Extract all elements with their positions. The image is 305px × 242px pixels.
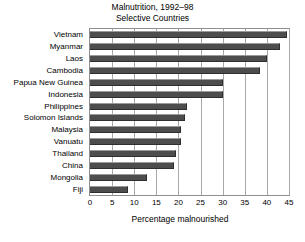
bar-row	[90, 162, 289, 169]
bar-row	[90, 126, 289, 133]
bar-myanmar	[90, 43, 280, 50]
x-tick-label-5: 5	[110, 198, 114, 208]
category-label-china: China	[62, 161, 83, 170]
category-label-thailand: Thailand	[52, 149, 83, 158]
bar-row	[90, 150, 289, 157]
category-label-cambodia: Cambodia	[47, 66, 83, 75]
bar-philippines	[90, 103, 187, 110]
bar-papua-new-guinea	[90, 79, 223, 86]
x-tick-label-20: 20	[174, 198, 183, 208]
bar-row	[90, 186, 289, 193]
bar-cambodia	[90, 67, 260, 74]
bar-row	[90, 43, 289, 50]
bar-vietnam	[90, 31, 287, 38]
chart-title-line-2: Selective Countries	[0, 13, 305, 24]
x-axis-title: Percentage malnourished	[60, 214, 300, 225]
category-label-fiji: Fiji	[73, 185, 83, 194]
category-label-papua-new-guinea: Papua New Guinea	[14, 78, 83, 87]
bars-layer	[90, 29, 289, 195]
x-tick-label-30: 30	[218, 198, 227, 208]
x-tick-label-45: 45	[285, 198, 294, 208]
category-label-laos: Laos	[66, 54, 83, 63]
category-label-vietnam: Vietnam	[54, 30, 83, 39]
bar-indonesia	[90, 91, 223, 98]
bar-laos	[90, 55, 267, 62]
bar-mongolia	[90, 174, 147, 181]
bar-thailand	[90, 150, 176, 157]
bar-fiji	[90, 186, 128, 193]
category-label-solomon-islands: Solomon Islands	[24, 113, 83, 122]
x-tick-label-40: 40	[262, 198, 271, 208]
bar-row	[90, 114, 289, 121]
category-axis-labels: VietnamMyanmarLaosCambodiaPapua New Guin…	[0, 28, 86, 196]
x-tick-label-15: 15	[152, 198, 161, 208]
category-label-mongolia: Mongolia	[51, 173, 83, 182]
bar-row	[90, 31, 289, 38]
bar-row	[90, 103, 289, 110]
category-label-malaysia: Malaysia	[51, 125, 83, 134]
x-tick-label-0: 0	[88, 198, 92, 208]
x-tick-label-25: 25	[196, 198, 205, 208]
category-label-vanuatu: Vanuatu	[54, 137, 83, 146]
bar-row	[90, 174, 289, 181]
bar-vanuatu	[90, 138, 181, 145]
category-label-philippines: Philippines	[44, 102, 83, 111]
bar-row	[90, 138, 289, 145]
gridline	[289, 29, 290, 195]
bar-malaysia	[90, 126, 181, 133]
category-label-indonesia: Indonesia	[48, 90, 83, 99]
chart-title: Malnutrition, 1992–98 Selective Countrie…	[0, 2, 305, 23]
bar-row	[90, 67, 289, 74]
category-label-myanmar: Myanmar	[50, 42, 83, 51]
chart-title-line-1: Malnutrition, 1992–98	[0, 2, 305, 13]
bar-row	[90, 55, 289, 62]
value-axis-tick-labels: 051015202530354045	[89, 198, 290, 210]
x-tick-label-10: 10	[130, 198, 139, 208]
plot-area	[89, 28, 290, 196]
x-tick-label-35: 35	[240, 198, 249, 208]
malnutrition-bar-chart: Malnutrition, 1992–98 Selective Countrie…	[0, 0, 305, 242]
bar-row	[90, 91, 289, 98]
bar-china	[90, 162, 174, 169]
bar-solomon-islands	[90, 114, 185, 121]
bar-row	[90, 79, 289, 86]
